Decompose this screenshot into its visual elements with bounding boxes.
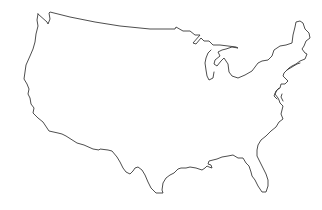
mainland-outline (24, 12, 310, 193)
map-outline-group (24, 12, 310, 193)
long-island-coast (287, 63, 300, 70)
lake-michigan-shore (205, 50, 214, 80)
us-outline-map (0, 0, 322, 210)
